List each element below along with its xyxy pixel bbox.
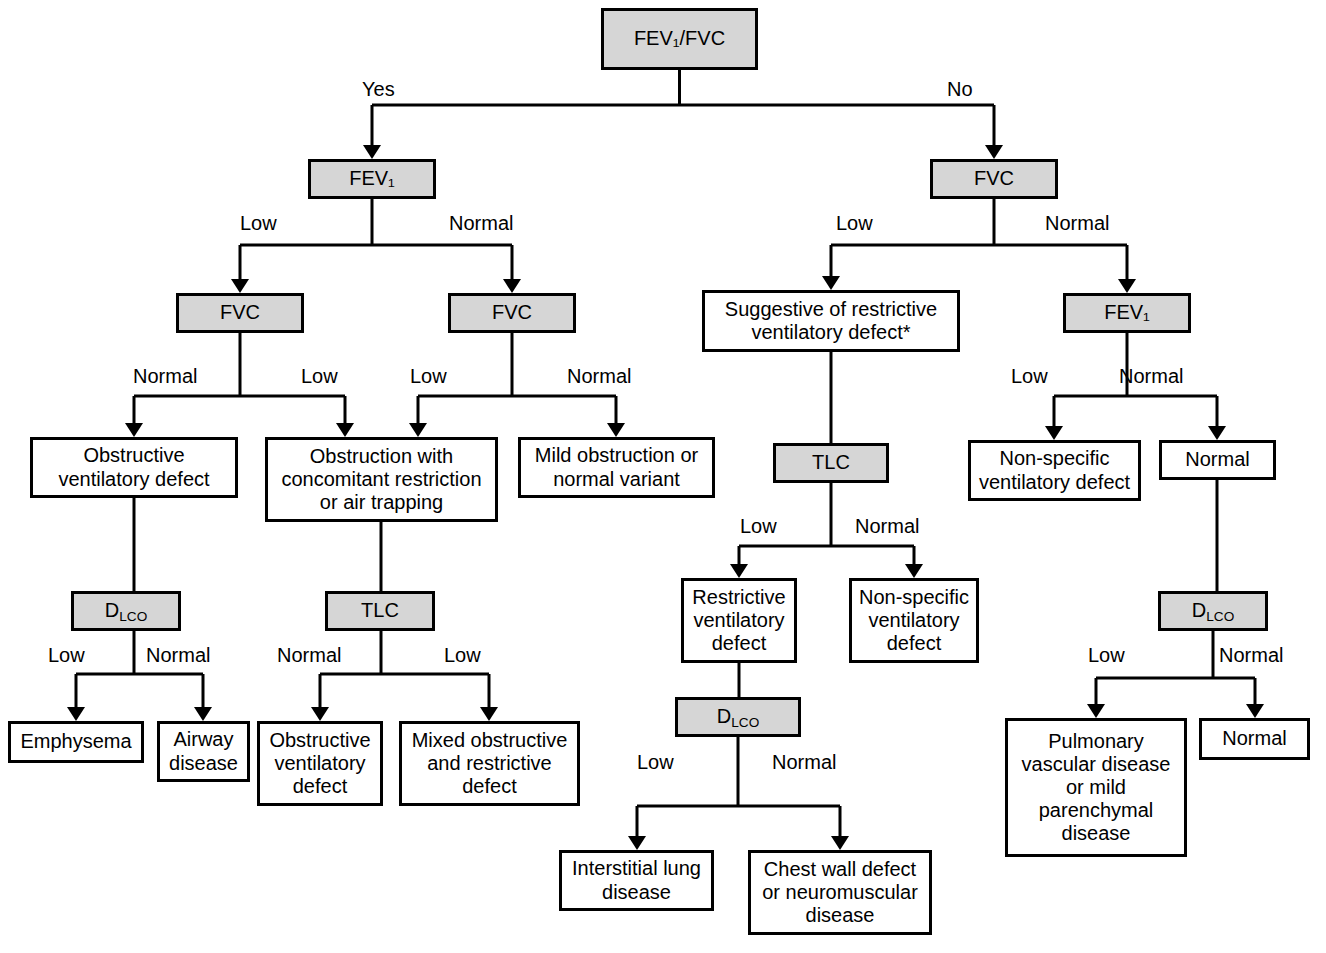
node-label: Mild obstruction ornormal variant bbox=[525, 444, 708, 490]
node-obstructive[interactable]: Obstructiveventilatory defect bbox=[30, 437, 238, 498]
node-restrictive[interactable]: Restrictiveventilatorydefect bbox=[681, 578, 797, 663]
node-label: Interstitial lungdisease bbox=[566, 857, 707, 903]
node-fev1_right[interactable]: FEV₁ bbox=[1063, 293, 1191, 333]
node-label: Restrictiveventilatorydefect bbox=[688, 586, 790, 656]
edge-label-lbl_dlcoc_low: Low bbox=[637, 752, 674, 772]
node-mild_obstr[interactable]: Mild obstruction ornormal variant bbox=[518, 437, 715, 498]
arrowhead bbox=[730, 564, 748, 578]
flowchart-canvas: FEV₁/FVCFEV₁FVCFVCFVCSuggestive of restr… bbox=[0, 0, 1326, 953]
node-label: FEV₁/FVC bbox=[608, 27, 751, 50]
node-interstitial[interactable]: Interstitial lungdisease bbox=[559, 850, 714, 911]
edge-label-lbl_tlcl_low: Low bbox=[444, 645, 481, 665]
arrowhead bbox=[480, 707, 498, 721]
edge-label-lbl_fvcb_low: Low bbox=[410, 366, 447, 386]
node-label: FVC bbox=[937, 167, 1051, 190]
node-label: Airwaydisease bbox=[164, 728, 243, 774]
edge-label-lbl_dlcoc_normal: Normal bbox=[772, 752, 836, 772]
edge-label-lbl_fvcr_low: Low bbox=[836, 213, 873, 233]
node-fvc_a[interactable]: FVC bbox=[176, 293, 304, 333]
node-pulm_vasc[interactable]: Pulmonaryvascular diseaseor mildparenchy… bbox=[1005, 718, 1187, 857]
node-label: Emphysema bbox=[15, 730, 137, 753]
node-fev1_left[interactable]: FEV₁ bbox=[308, 159, 436, 199]
node-tlc_center[interactable]: TLC bbox=[773, 443, 889, 483]
node-label: DLCO bbox=[78, 599, 174, 622]
node-nonspec_cent[interactable]: Non-specificventilatorydefect bbox=[849, 578, 979, 663]
arrowhead bbox=[231, 279, 249, 293]
node-obstr_concom[interactable]: Obstruction withconcomitant restrictiono… bbox=[265, 437, 498, 522]
node-label: DLCO bbox=[682, 705, 794, 728]
node-label: Mixed obstructiveand restrictivedefect bbox=[406, 729, 573, 799]
edge-label-lbl_fev1l_normal: Normal bbox=[449, 213, 513, 233]
node-label: Chest wall defector neuromusculardisease bbox=[755, 858, 925, 928]
node-label: DLCO bbox=[1165, 599, 1261, 622]
arrowhead bbox=[1087, 704, 1105, 718]
edge-label-lbl_tlcl_normal: Normal bbox=[277, 645, 341, 665]
edge-label-lbl_tlcc_normal: Normal bbox=[855, 516, 919, 536]
arrowhead bbox=[409, 423, 427, 437]
node-nonspec_right[interactable]: Non-specificventilatory defect bbox=[968, 440, 1141, 501]
node-label: Normal bbox=[1206, 727, 1303, 750]
edge-label-lbl_dlcol_normal: Normal bbox=[146, 645, 210, 665]
node-label: Non-specificventilatorydefect bbox=[856, 586, 972, 656]
edge-label-lbl_dlcor_normal: Normal bbox=[1219, 645, 1283, 665]
node-dlco_center[interactable]: DLCO bbox=[675, 697, 801, 737]
node-obstr_vent[interactable]: Obstructiveventilatorydefect bbox=[257, 721, 383, 806]
node-label: Non-specificventilatory defect bbox=[975, 447, 1134, 493]
node-suggestive[interactable]: Suggestive of restrictiveventilatory def… bbox=[702, 290, 960, 352]
arrowhead bbox=[125, 423, 143, 437]
node-label: FEV₁ bbox=[315, 167, 429, 190]
edge-label-lbl_fvcb_normal: Normal bbox=[567, 366, 631, 386]
arrowhead bbox=[503, 279, 521, 293]
node-mixed[interactable]: Mixed obstructiveand restrictivedefect bbox=[399, 721, 580, 806]
arrowhead bbox=[1246, 704, 1264, 718]
arrowhead bbox=[311, 707, 329, 721]
arrowhead bbox=[1208, 426, 1226, 440]
edge-label-lbl_dlcol_low: Low bbox=[48, 645, 85, 665]
edge-label-lbl_dlcor_low: Low bbox=[1088, 645, 1125, 665]
node-label: Obstructiveventilatorydefect bbox=[264, 729, 376, 799]
edge-label-lbl_fvcr_normal: Normal bbox=[1045, 213, 1109, 233]
arrowhead bbox=[194, 707, 212, 721]
node-label: Normal bbox=[1166, 448, 1269, 471]
arrowhead bbox=[67, 707, 85, 721]
arrowhead bbox=[985, 145, 1003, 159]
arrowhead bbox=[336, 423, 354, 437]
node-fvc_b[interactable]: FVC bbox=[448, 293, 576, 333]
node-label: Obstructiveventilatory defect bbox=[37, 444, 231, 490]
connector-e_dlcor_split bbox=[1096, 631, 1255, 709]
arrowhead bbox=[628, 836, 646, 850]
node-airway[interactable]: Airwaydisease bbox=[157, 721, 250, 782]
node-label: TLC bbox=[780, 451, 882, 474]
node-label: Suggestive of restrictiveventilatory def… bbox=[709, 298, 953, 344]
node-normal_far[interactable]: Normal bbox=[1199, 718, 1310, 760]
edge-label-lbl_yes: Yes bbox=[362, 79, 395, 99]
arrowhead bbox=[905, 564, 923, 578]
node-normal_right[interactable]: Normal bbox=[1159, 440, 1276, 480]
connector-e_root_split bbox=[372, 70, 994, 150]
edge-label-lbl_fev1l_low: Low bbox=[240, 213, 277, 233]
node-root[interactable]: FEV₁/FVC bbox=[601, 8, 758, 70]
arrowhead bbox=[831, 836, 849, 850]
edge-label-lbl_fev1r_normal: Normal bbox=[1119, 366, 1183, 386]
node-fvc_right[interactable]: FVC bbox=[930, 159, 1058, 199]
edge-label-lbl_tlcc_low: Low bbox=[740, 516, 777, 536]
node-label: TLC bbox=[332, 599, 428, 622]
node-label: Pulmonaryvascular diseaseor mildparenchy… bbox=[1012, 730, 1180, 846]
edge-label-lbl_fvca_low: Low bbox=[301, 366, 338, 386]
node-tlc_left[interactable]: TLC bbox=[325, 591, 435, 631]
node-label: FVC bbox=[455, 301, 569, 324]
edge-label-lbl_fvca_normal: Normal bbox=[133, 366, 197, 386]
arrowhead bbox=[1118, 279, 1136, 293]
node-dlco_left[interactable]: DLCO bbox=[71, 591, 181, 631]
node-label: Obstruction withconcomitant restrictiono… bbox=[272, 445, 491, 515]
node-label: FEV₁ bbox=[1070, 301, 1184, 324]
node-chest_wall[interactable]: Chest wall defector neuromusculardisease bbox=[748, 850, 932, 935]
node-label: FVC bbox=[183, 301, 297, 324]
node-emphysema[interactable]: Emphysema bbox=[8, 721, 144, 763]
arrowhead bbox=[822, 276, 840, 290]
arrowhead bbox=[607, 423, 625, 437]
node-dlco_right[interactable]: DLCO bbox=[1158, 591, 1268, 631]
arrowhead bbox=[363, 145, 381, 159]
edge-label-lbl_fev1r_low: Low bbox=[1011, 366, 1048, 386]
edge-label-lbl_no: No bbox=[947, 79, 973, 99]
